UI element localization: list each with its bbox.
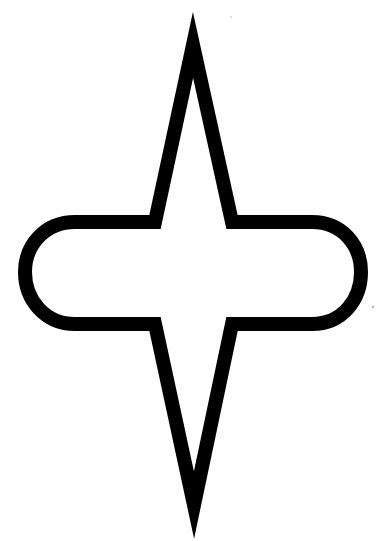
scan-speck [372,306,374,308]
scan-speck [230,16,232,18]
drawing-canvas [0,0,391,541]
star-outline [25,45,361,505]
four-point-star-icon [0,0,391,541]
